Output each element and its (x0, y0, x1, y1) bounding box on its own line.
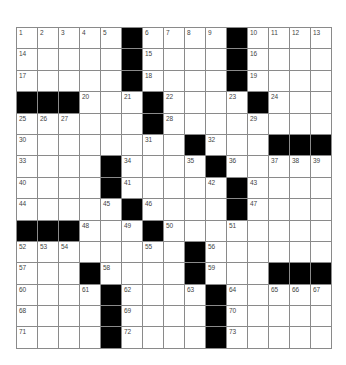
grid-cell[interactable] (290, 327, 311, 348)
grid-cell[interactable] (269, 221, 290, 242)
grid-cell[interactable] (185, 92, 206, 113)
grid-cell[interactable] (38, 199, 59, 220)
grid-cell[interactable]: 72 (122, 327, 143, 348)
grid-cell[interactable]: 20 (80, 92, 101, 113)
grid-cell[interactable] (206, 92, 227, 113)
grid-cell[interactable]: 7 (164, 28, 185, 49)
grid-cell[interactable] (248, 135, 269, 156)
grid-cell[interactable] (80, 71, 101, 92)
grid-cell[interactable] (59, 306, 80, 327)
grid-cell[interactable] (80, 199, 101, 220)
grid-cell[interactable] (185, 199, 206, 220)
grid-cell[interactable] (164, 285, 185, 306)
grid-cell[interactable] (164, 199, 185, 220)
grid-cell[interactable]: 40 (17, 178, 38, 199)
grid-cell[interactable] (185, 178, 206, 199)
grid-cell[interactable]: 54 (59, 242, 80, 263)
grid-cell[interactable] (101, 135, 122, 156)
grid-cell[interactable] (311, 306, 332, 327)
grid-cell[interactable] (164, 156, 185, 177)
grid-cell[interactable] (248, 306, 269, 327)
grid-cell[interactable]: 60 (17, 285, 38, 306)
grid-cell[interactable] (248, 263, 269, 284)
grid-cell[interactable] (248, 221, 269, 242)
grid-cell[interactable] (269, 178, 290, 199)
grid-cell[interactable] (59, 156, 80, 177)
grid-cell[interactable] (311, 92, 332, 113)
grid-cell[interactable] (38, 285, 59, 306)
grid-cell[interactable] (143, 156, 164, 177)
grid-cell[interactable] (311, 178, 332, 199)
grid-cell[interactable]: 64 (227, 285, 248, 306)
grid-cell[interactable]: 26 (38, 114, 59, 135)
grid-cell[interactable]: 52 (17, 242, 38, 263)
grid-cell[interactable] (59, 135, 80, 156)
grid-cell[interactable]: 15 (143, 49, 164, 70)
grid-cell[interactable] (38, 306, 59, 327)
grid-cell[interactable]: 23 (227, 92, 248, 113)
grid-cell[interactable]: 17 (17, 71, 38, 92)
grid-cell[interactable] (227, 242, 248, 263)
grid-cell[interactable]: 2 (38, 28, 59, 49)
grid-cell[interactable] (38, 263, 59, 284)
grid-cell[interactable] (164, 306, 185, 327)
grid-cell[interactable] (185, 114, 206, 135)
grid-cell[interactable] (164, 49, 185, 70)
grid-cell[interactable]: 58 (101, 263, 122, 284)
grid-cell[interactable]: 31 (143, 135, 164, 156)
grid-cell[interactable] (164, 327, 185, 348)
grid-cell[interactable]: 34 (122, 156, 143, 177)
grid-cell[interactable]: 8 (185, 28, 206, 49)
grid-cell[interactable]: 71 (17, 327, 38, 348)
grid-cell[interactable] (59, 199, 80, 220)
grid-cell[interactable] (59, 285, 80, 306)
grid-cell[interactable] (269, 242, 290, 263)
grid-cell[interactable] (248, 242, 269, 263)
grid-cell[interactable] (248, 327, 269, 348)
grid-cell[interactable]: 5 (101, 28, 122, 49)
grid-cell[interactable] (269, 71, 290, 92)
grid-cell[interactable] (59, 49, 80, 70)
grid-cell[interactable] (290, 242, 311, 263)
grid-cell[interactable] (59, 263, 80, 284)
grid-cell[interactable] (101, 221, 122, 242)
grid-cell[interactable] (206, 49, 227, 70)
grid-cell[interactable]: 21 (122, 92, 143, 113)
grid-cell[interactable]: 49 (122, 221, 143, 242)
grid-cell[interactable]: 55 (143, 242, 164, 263)
grid-cell[interactable] (59, 71, 80, 92)
grid-cell[interactable] (206, 221, 227, 242)
grid-cell[interactable]: 30 (17, 135, 38, 156)
grid-cell[interactable] (290, 306, 311, 327)
grid-cell[interactable] (290, 49, 311, 70)
grid-cell[interactable] (164, 242, 185, 263)
grid-cell[interactable]: 1 (17, 28, 38, 49)
grid-cell[interactable] (143, 327, 164, 348)
grid-cell[interactable]: 61 (80, 285, 101, 306)
grid-cell[interactable] (185, 327, 206, 348)
grid-cell[interactable]: 59 (206, 263, 227, 284)
grid-cell[interactable] (164, 135, 185, 156)
grid-cell[interactable]: 4 (80, 28, 101, 49)
grid-cell[interactable]: 50 (164, 221, 185, 242)
grid-cell[interactable] (38, 135, 59, 156)
grid-cell[interactable]: 14 (17, 49, 38, 70)
grid-cell[interactable]: 56 (206, 242, 227, 263)
grid-cell[interactable] (38, 156, 59, 177)
grid-cell[interactable]: 9 (206, 28, 227, 49)
grid-cell[interactable] (80, 135, 101, 156)
grid-cell[interactable] (290, 221, 311, 242)
grid-cell[interactable] (227, 114, 248, 135)
grid-cell[interactable]: 66 (290, 285, 311, 306)
grid-cell[interactable]: 62 (122, 285, 143, 306)
grid-cell[interactable] (248, 156, 269, 177)
grid-cell[interactable] (80, 327, 101, 348)
grid-cell[interactable]: 13 (311, 28, 332, 49)
grid-cell[interactable]: 67 (311, 285, 332, 306)
grid-cell[interactable]: 51 (227, 221, 248, 242)
grid-cell[interactable] (311, 327, 332, 348)
grid-cell[interactable]: 3 (59, 28, 80, 49)
grid-cell[interactable]: 11 (269, 28, 290, 49)
grid-cell[interactable]: 73 (227, 327, 248, 348)
grid-cell[interactable]: 53 (38, 242, 59, 263)
